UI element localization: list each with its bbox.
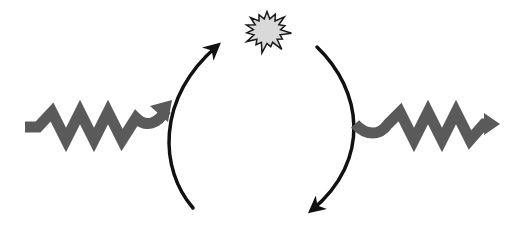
star-burst [247,12,292,53]
incoming-wave-arrow [25,100,172,140]
incoming-wave-body [25,110,166,140]
outgoing-wave-body [355,112,488,140]
cycle-diagram [0,0,525,225]
left-arc-arrow [169,46,217,208]
outgoing-wave-arrowhead [484,113,500,135]
outgoing-wave-arrow [355,112,500,140]
right-arc-arrow [312,47,354,210]
diagram-canvas [0,0,525,225]
